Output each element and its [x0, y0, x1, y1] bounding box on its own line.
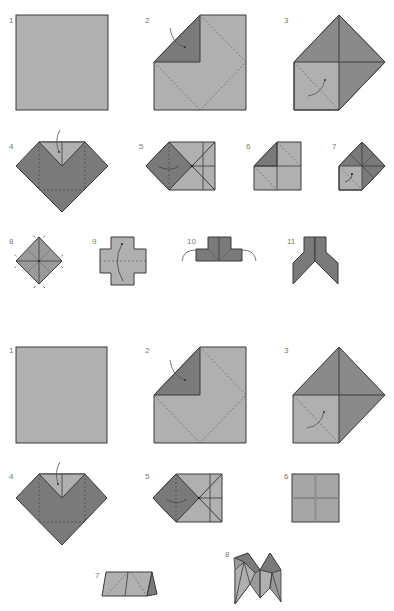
step-8-upper: 8 ↖↗ ↖↗ ↙↘ ↙↘ — [0, 220, 80, 300]
plain-square-diagram — [0, 0, 120, 120]
svg-text:↘: ↘ — [60, 264, 63, 269]
step-3-lower: 3 — [280, 330, 394, 450]
svg-text:↙: ↙ — [33, 284, 36, 289]
svg-text:↖: ↖ — [14, 253, 17, 258]
step-1-lower: 1 — [0, 330, 120, 450]
svg-text:↘: ↘ — [42, 284, 45, 289]
fold-arrow-right-icon — [242, 250, 256, 261]
step-6-upper: 6 — [245, 120, 305, 220]
precrease-diamond-diagram: ↖↗ ↖↗ ↙↘ ↙↘ — [0, 220, 80, 300]
svg-text:↖: ↖ — [33, 234, 36, 239]
step-10-upper: 10 — [175, 220, 265, 300]
step-2-upper: 2 — [140, 0, 260, 120]
step-7-upper: 7 — [330, 120, 394, 220]
heart-fold-diagram — [0, 450, 120, 550]
corner-fold-diagram — [140, 330, 260, 450]
turned-square-diagram — [245, 120, 305, 220]
step-11-upper: 11 — [280, 220, 360, 300]
step-4-upper: 4 — [0, 120, 120, 220]
step-2-lower: 2 — [140, 330, 260, 450]
step-4-lower: 4 — [0, 450, 120, 550]
step-6-lower: 6 — [280, 450, 360, 550]
svg-text:↙: ↙ — [14, 264, 17, 269]
step-5-upper: 5 — [135, 120, 235, 220]
cross-fold-diagram — [90, 220, 160, 300]
step-8-lower: 8 — [220, 540, 300, 611]
step-9-upper: 9 — [90, 220, 160, 300]
corner-fold-diagram — [140, 0, 260, 120]
svg-text:↗: ↗ — [42, 234, 45, 239]
svg-text:↗: ↗ — [60, 253, 63, 258]
point-fold-diagram — [135, 120, 235, 220]
point-fold-diagram — [140, 450, 240, 550]
step-7-lower: 7 — [90, 550, 170, 611]
three-corners-fold-diagram — [280, 0, 394, 120]
small-corner-fold-diagram — [330, 120, 394, 220]
half-fold-tent-diagram — [90, 550, 170, 611]
plain-square-diagram — [0, 330, 120, 450]
step-5-lower: 5 — [140, 450, 240, 550]
flaps-out-diagram — [175, 220, 265, 300]
heart-fold-diagram — [0, 120, 120, 220]
step-1-upper: 1 — [0, 0, 120, 120]
finished-fortune-teller-diagram — [220, 540, 300, 611]
step-3-upper: 3 — [280, 0, 394, 120]
finished-shape-diagram — [280, 220, 360, 300]
fold-arrow-left-icon — [182, 250, 196, 261]
crease-square-diagram — [280, 450, 360, 550]
three-corners-fold-diagram — [280, 330, 394, 450]
